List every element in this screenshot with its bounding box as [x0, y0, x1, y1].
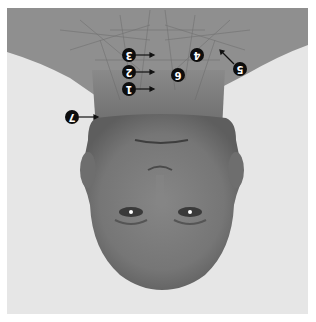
anatomy-illustration	[7, 8, 308, 314]
callout-label-7: 7	[65, 110, 79, 124]
callout-label-3: 3	[122, 48, 136, 62]
left-ear	[80, 152, 96, 188]
callout-label-4: 4	[190, 48, 204, 62]
callout-label-1: 1	[122, 82, 136, 96]
right-ear	[228, 152, 244, 188]
callout-label-6: 6	[171, 68, 185, 82]
image-background	[7, 8, 308, 314]
image-frame: 1 2 3 4 5 6 7	[0, 0, 316, 322]
callout-label-5: 5	[233, 62, 247, 76]
callout-label-2: 2	[122, 65, 136, 79]
